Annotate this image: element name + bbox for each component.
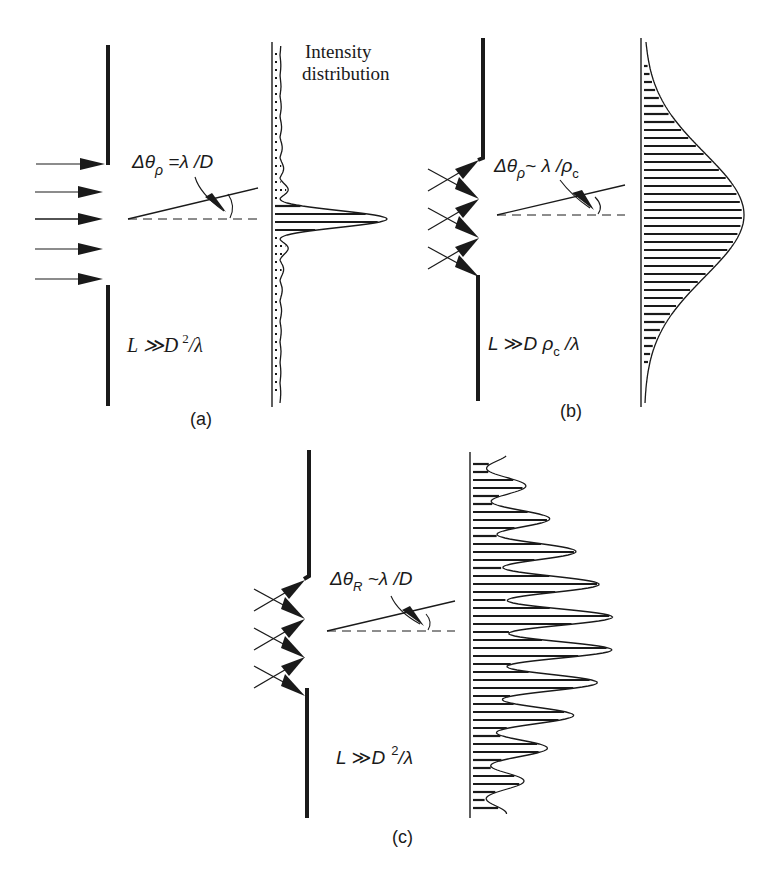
panel-caption-c: (c) <box>392 827 413 847</box>
intensity-distribution-label: Intensity distribution <box>302 41 390 84</box>
intensity-plot-a <box>272 42 387 407</box>
condition-formula-b: L ≫D ρc /λ <box>488 333 580 359</box>
arrow-icon <box>35 243 103 255</box>
intensity-plot-c <box>470 452 613 818</box>
intensity-curve <box>280 46 387 403</box>
emitter-icon <box>428 199 479 238</box>
angle-formula-b: Δθρ~ λ /ρc <box>493 155 579 181</box>
intensity-curve <box>486 456 612 814</box>
emitter-icon <box>254 619 305 658</box>
emitter-icon <box>428 238 479 277</box>
emitter-icon <box>254 657 305 696</box>
panel-caption-b: (b) <box>560 401 582 421</box>
divergence-angle-construction <box>128 177 258 219</box>
coherence-diffraction-figure: Δθρ =λ /D L ≫D2/λ (a) Intensity distribu… <box>0 0 780 877</box>
arrow-icon <box>35 213 103 225</box>
angle-formula-c: ΔθR ~λ /D <box>329 568 413 594</box>
condition-formula-c: L ≫D2/λ <box>336 743 413 768</box>
incident-wave-arrows <box>35 158 105 285</box>
panel-a: Δθρ =λ /D L ≫D2/λ (a) Intensity distribu… <box>35 41 390 429</box>
arrow-icon <box>35 186 103 198</box>
intensity-plot-b <box>641 38 744 407</box>
divergence-angle-construction <box>497 180 625 215</box>
aperture-wall-upper <box>478 38 483 160</box>
arrow-icon <box>35 273 103 285</box>
condition-formula-a: L ≫D2/λ <box>126 331 203 356</box>
panel-b: Δθρ~ λ /ρc L ≫D ρc /λ (b) <box>428 38 744 421</box>
emitter-sources <box>428 160 479 277</box>
emitter-icon <box>254 580 305 619</box>
emitter-icon <box>428 160 479 199</box>
panel-c: ΔθR ~λ /D L ≫D2/λ (c) <box>254 450 613 847</box>
intensity-curve <box>645 42 744 403</box>
divergence-angle-construction <box>327 596 455 631</box>
emitter-sources <box>254 580 305 696</box>
angle-formula-a: Δθρ =λ /D <box>131 151 213 178</box>
arrow-icon <box>36 158 105 170</box>
aperture-wall-upper <box>304 450 309 579</box>
panel-caption-a: (a) <box>190 409 212 429</box>
